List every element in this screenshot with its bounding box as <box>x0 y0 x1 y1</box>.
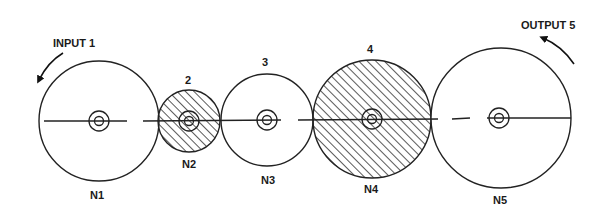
gear-2-number: 2 <box>185 74 191 86</box>
gear-train-diagram: INPUT 1 OUTPUT 5 2 3 4 N1 N2 N3 N4 N5 <box>0 0 608 217</box>
output-rotation-arrow-icon <box>543 38 574 64</box>
input-label: INPUT 1 <box>53 37 95 49</box>
gear-n5-label: N5 <box>493 194 507 206</box>
output-label: OUTPUT 5 <box>521 19 575 31</box>
gear-3-number: 3 <box>262 56 268 68</box>
gear-n4-label: N4 <box>364 183 379 195</box>
gear-n2-label: N2 <box>182 158 196 170</box>
gear-n1-label: N1 <box>90 189 104 201</box>
gear-n3-label: N3 <box>261 174 275 186</box>
gear-4-number: 4 <box>367 43 374 55</box>
